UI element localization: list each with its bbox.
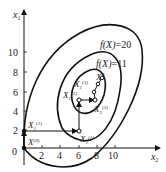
- label-f11: f(X)=11: [96, 58, 127, 70]
- point-x1-2: [77, 98, 81, 102]
- point-xstar: [96, 82, 100, 86]
- x-tick-label: 6: [76, 150, 81, 161]
- label-x1-2: X1(2): [62, 90, 77, 101]
- y-tick-label: 10: [8, 47, 18, 58]
- x-tick-label: 4: [57, 150, 62, 161]
- point-x1-1: [22, 129, 26, 133]
- origin-label: 0: [12, 146, 17, 157]
- y-tick-label: 2: [13, 125, 18, 136]
- label-x1-1: X1(1): [27, 120, 42, 131]
- x-tick-label: 10: [108, 150, 118, 161]
- y-tick-label: 8: [13, 67, 18, 78]
- point-x2-1: [77, 129, 81, 133]
- label-x2-2: X2(2): [93, 104, 108, 115]
- point-x1-3: [92, 90, 96, 94]
- x-axis-label: x2: [150, 151, 158, 163]
- label-x2-1: X2(1): [79, 134, 94, 145]
- point-x2-2: [93, 98, 97, 102]
- label-f20: f(X)=20: [100, 39, 131, 51]
- label-xstar: X*: [95, 72, 105, 82]
- point-x0: [22, 146, 26, 150]
- label-x0: X(0): [27, 137, 40, 147]
- y-tick-label: 6: [13, 87, 18, 98]
- x-tick-label: 2: [39, 150, 44, 161]
- y-axis-label: x1: [12, 9, 20, 21]
- label-x1-3: X1(3): [73, 79, 88, 90]
- y-tick-label: 4: [13, 106, 18, 117]
- contour-labels: f(X)=20 f(X)=11: [96, 39, 131, 70]
- optimization-contour-diagram: 2 4 6 8 10 2 4 6 8 10 0 x1 x2: [0, 0, 166, 172]
